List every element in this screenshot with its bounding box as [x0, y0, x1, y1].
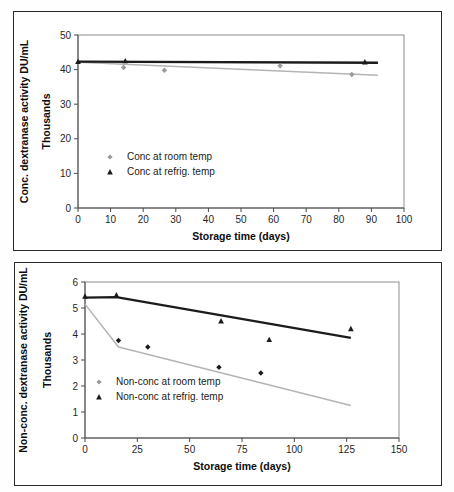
legend-marker-triangle [107, 169, 113, 174]
x-tick-label: 50 [184, 444, 196, 455]
x-tick-label: 125 [338, 444, 355, 455]
legend-label-triangle: Conc at refrig. temp [127, 166, 215, 177]
legend-marker-triangle [96, 394, 102, 399]
legend-label-diamond: Conc at room temp [127, 151, 212, 162]
y-tick-label: 20 [60, 133, 72, 144]
figure-page: 010203040500102030405060708090100Conc at… [0, 0, 454, 492]
x-tick-label: 25 [132, 444, 144, 455]
x-tick-label: 100 [396, 214, 413, 225]
x-axis-title: Storage time (days) [193, 460, 290, 472]
datapoint-triangle [114, 292, 120, 297]
x-tick-label: 90 [366, 214, 378, 225]
plot-frame [85, 282, 399, 438]
y-axis-title: Non-conc. dextranase activity DU/mL [17, 267, 29, 453]
y-tick-label: 5 [72, 303, 78, 314]
y-tick-label: 40 [60, 64, 72, 75]
y-tick-label: 10 [60, 168, 72, 179]
conc-figure-panel: 010203040500102030405060708090100Conc at… [13, 11, 442, 251]
x-tick-label: 100 [286, 444, 303, 455]
legend-label-diamond: Non-conc at room temp [116, 376, 221, 387]
x-tick-label: 70 [301, 214, 313, 225]
x-tick-label: 50 [235, 214, 247, 225]
x-tick-label: 10 [105, 214, 117, 225]
trendline-triangle [85, 297, 351, 338]
datapoint-triangle [266, 337, 272, 342]
legend-marker-diamond [107, 154, 112, 159]
legend-label-triangle: Non-conc at refrig. temp [116, 391, 224, 402]
datapoint-triangle [348, 326, 354, 331]
x-tick-label: 150 [391, 444, 408, 455]
datapoint-triangle [218, 318, 224, 323]
nonconc-chart-svg: 01234560255075100125150Non-conc at room … [15, 263, 441, 485]
datapoint-diamond [162, 68, 167, 73]
y-tick-label: 50 [60, 30, 72, 41]
nonconc-plot-area: 01234560255075100125150Non-conc at room … [15, 263, 441, 485]
y-tick-label: 6 [72, 277, 78, 288]
y-tick-label: 2 [72, 381, 78, 392]
conc-chart-svg: 010203040500102030405060708090100Conc at… [14, 12, 441, 250]
datapoint-triangle [82, 293, 88, 298]
datapoint-diamond [145, 344, 150, 349]
datapoint-diamond [216, 365, 221, 370]
y-tick-label: 30 [60, 99, 72, 110]
datapoint-diamond [277, 63, 282, 68]
y-tick-label: 4 [72, 329, 78, 340]
x-tick-label: 75 [236, 444, 248, 455]
datapoint-diamond [349, 72, 354, 77]
x-tick-label: 0 [75, 214, 81, 225]
x-tick-label: 30 [170, 214, 182, 225]
y-axis-subtitle: Thousands [40, 93, 52, 149]
datapoint-diamond [258, 370, 263, 375]
datapoint-diamond [116, 338, 121, 343]
y-tick-label: 1 [72, 407, 78, 418]
y-tick-label: 0 [65, 203, 71, 214]
y-tick-label: 0 [72, 433, 78, 444]
x-tick-label: 0 [82, 444, 88, 455]
y-axis-subtitle: Thousands [41, 332, 53, 388]
legend-marker-diamond [96, 379, 101, 384]
x-tick-label: 40 [203, 214, 215, 225]
nonconc-figure-panel: 01234560255075100125150Non-conc at room … [14, 262, 442, 486]
x-axis-title: Storage time (days) [192, 230, 289, 242]
conc-plot-area: 010203040500102030405060708090100Conc at… [14, 12, 441, 250]
datapoint-diamond [121, 65, 126, 70]
y-axis-title: Conc. dextranase activity DU/mL [18, 39, 30, 203]
x-tick-label: 60 [268, 214, 280, 225]
y-tick-label: 3 [72, 355, 78, 366]
x-tick-label: 80 [333, 214, 345, 225]
x-tick-label: 20 [138, 214, 150, 225]
